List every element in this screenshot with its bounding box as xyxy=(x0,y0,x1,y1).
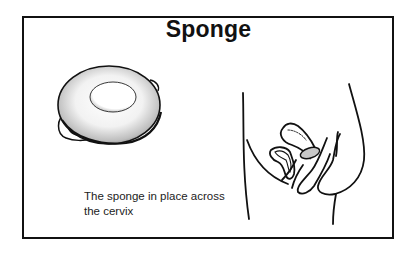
caption-line-1: The sponge in place across xyxy=(84,189,254,204)
figure-caption: The sponge in place across the cervix xyxy=(84,189,254,219)
sponge-icon xyxy=(58,66,161,144)
caption-line-2: the cervix xyxy=(84,204,254,219)
pelvic-cross-section-icon xyxy=(243,84,364,224)
